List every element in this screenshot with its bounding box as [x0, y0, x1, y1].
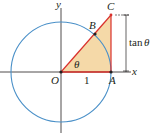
unit-circle-diagram: y x O A B C θ 1 tan θ — [0, 0, 152, 135]
y-axis-label: y — [55, 0, 61, 10]
point-b-label: B — [89, 19, 96, 31]
x-axis-label: x — [131, 65, 137, 77]
radius-label: 1 — [84, 74, 90, 86]
point-c-dot — [110, 14, 113, 17]
point-o-dot — [59, 70, 62, 73]
origin-label: O — [51, 74, 59, 86]
tan-arg-label: θ — [144, 36, 150, 48]
point-a-label: A — [108, 74, 116, 86]
angle-theta-label: θ — [74, 58, 80, 70]
tan-func-label: tan — [129, 36, 143, 48]
point-c-label: C — [107, 0, 115, 12]
point-b-dot — [93, 32, 96, 35]
